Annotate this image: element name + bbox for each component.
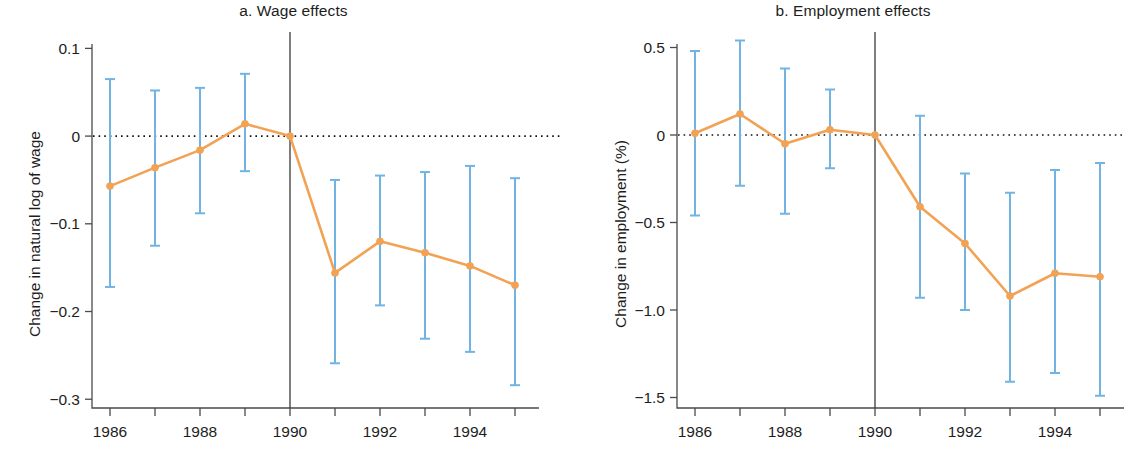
y-tick-label: 0	[656, 127, 665, 144]
data-point-marker	[1052, 270, 1059, 277]
x-tick-label: 1994	[1038, 423, 1073, 440]
panel-wage-effects: a. Wage effects Change in natural log of…	[0, 0, 563, 459]
error-bar	[1005, 193, 1015, 382]
series-line	[695, 114, 1100, 296]
y-tick-label: 0.5	[643, 39, 665, 56]
data-point-marker	[692, 130, 699, 137]
x-tick-label: 1992	[948, 423, 982, 440]
data-point-marker	[152, 164, 159, 171]
data-point-marker	[332, 270, 339, 277]
error-bar	[465, 166, 475, 352]
x-tick-label: 1988	[183, 423, 217, 440]
data-point-marker	[1007, 293, 1014, 300]
data-point-marker	[782, 140, 789, 147]
x-tick-label: 1986	[93, 423, 127, 440]
x-tick-label: 1994	[453, 423, 488, 440]
data-point-marker	[917, 203, 924, 210]
y-tick-label: −0.2	[49, 303, 80, 320]
data-point-marker	[107, 183, 114, 190]
data-point-marker	[422, 249, 429, 256]
figure-root: a. Wage effects Change in natural log of…	[0, 0, 1125, 459]
data-point-marker	[512, 282, 519, 289]
y-tick-label: −1.0	[634, 302, 665, 319]
panel-employment-effects: b. Employment effects Change in employme…	[563, 0, 1125, 459]
data-point-marker	[467, 263, 474, 270]
x-tick-label: 1986	[678, 423, 712, 440]
x-tick-label: 1988	[768, 423, 802, 440]
series-line	[110, 124, 515, 285]
y-tick-label: −0.5	[634, 214, 665, 231]
data-point-marker	[962, 240, 969, 247]
data-point-marker	[737, 111, 744, 118]
y-tick-label: −0.1	[49, 215, 80, 232]
x-tick-label: 1990	[273, 423, 308, 440]
panel-b-plot: 0.50−0.5−1.0−1.519861988199019921994	[563, 0, 1125, 459]
y-tick-label: 0	[71, 128, 80, 145]
data-point-marker	[872, 132, 879, 139]
data-point-marker	[287, 133, 294, 140]
data-point-marker	[1097, 273, 1104, 280]
y-tick-label: −0.3	[49, 391, 80, 408]
panel-a-plot: 0.10−0.1−0.2−0.319861988199019921994	[0, 0, 563, 459]
data-point-marker	[377, 238, 384, 245]
data-point-marker	[827, 126, 834, 133]
x-tick-label: 1992	[363, 423, 397, 440]
y-tick-label: 0.1	[58, 40, 80, 57]
y-tick-label: −1.5	[634, 389, 665, 406]
x-tick-label: 1990	[858, 423, 893, 440]
data-point-marker	[197, 147, 204, 154]
data-point-marker	[242, 120, 249, 127]
